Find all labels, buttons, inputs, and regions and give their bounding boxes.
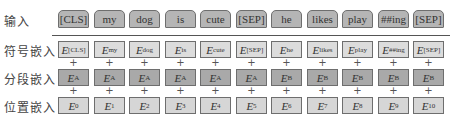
input-token-box: dog <box>129 10 160 28</box>
embedding-symbol: E <box>210 72 217 84</box>
embedding-symbol: E <box>246 100 253 112</box>
segment-embedding-box: EB <box>413 69 444 86</box>
plus-sign: + <box>342 85 373 96</box>
embedding-symbol: E <box>317 72 324 84</box>
plus-sign: + <box>200 85 231 96</box>
position-embedding-box: E7 <box>307 97 338 114</box>
plus-sign: + <box>129 85 160 96</box>
position-embedding-box: E10 <box>413 97 444 114</box>
token-embedding-box: Ehe <box>271 41 302 58</box>
token-embedding-box: Emy <box>94 41 125 58</box>
embedding-symbol: E <box>382 44 389 56</box>
token-embedding-box: Eis <box>165 41 196 58</box>
embedding-subscript: 4 <box>217 102 221 110</box>
embedding-symbol: E <box>388 100 395 112</box>
embedding-subscript: A <box>181 74 186 82</box>
plus-sign: + <box>271 85 302 96</box>
embedding-symbol: E <box>136 44 143 56</box>
embedding-subscript: 8 <box>359 102 363 110</box>
segment-embedding-box: EA <box>236 69 267 86</box>
input-token-box: my <box>94 10 125 28</box>
embedding-symbol: E <box>104 100 111 112</box>
embedding-subscript: B <box>324 74 329 82</box>
embedding-symbol: E <box>61 44 68 56</box>
embedding-symbol: E <box>417 44 424 56</box>
embedding-symbol: E <box>281 72 288 84</box>
embedding-symbol: E <box>348 44 355 56</box>
embedding-subscript: dog <box>143 46 154 54</box>
plus-sign: + <box>236 85 267 96</box>
embedding-symbol: E <box>280 44 287 56</box>
embedding-subscript: cute <box>213 46 225 54</box>
embedding-symbol: E <box>139 72 146 84</box>
embedding-subscript: is <box>182 46 187 54</box>
token-embedding-box: Eplay <box>342 41 373 58</box>
embedding-subscript: A <box>216 74 221 82</box>
embedding-subscript: likes <box>319 46 332 54</box>
embedding-subscript: 7 <box>324 102 328 110</box>
plus-sign: + <box>378 57 409 68</box>
position-embedding-box: E3 <box>165 97 196 114</box>
plus-sign: + <box>200 57 231 68</box>
embedding-symbol: E <box>175 100 182 112</box>
plus-sign: + <box>94 57 125 68</box>
embedding-subscript: B <box>430 74 435 82</box>
embedding-subscript: B <box>395 74 400 82</box>
input-token-box: likes <box>307 10 338 28</box>
plus-sign: + <box>236 57 267 68</box>
embedding-symbol: E <box>68 72 75 84</box>
token-embedding-box: Ecute <box>200 41 231 58</box>
input-token-box: ##ing <box>378 10 409 28</box>
plus-sign: + <box>165 57 196 68</box>
embedding-subscript: [CLS] <box>68 46 86 54</box>
divider-line <box>52 35 450 36</box>
segment-embedding-box: EA <box>129 69 160 86</box>
plus-sign: + <box>58 85 89 96</box>
position-embedding-box: E0 <box>58 97 89 114</box>
row-label-input: 输入 <box>4 12 30 29</box>
embedding-symbol: E <box>102 44 109 56</box>
position-embedding-box: E4 <box>200 97 231 114</box>
embedding-subscript: 0 <box>75 102 79 110</box>
embedding-subscript: 2 <box>146 102 150 110</box>
embedding-symbol: E <box>104 72 111 84</box>
row-label-token-embedding: 符号嵌入 <box>4 42 56 59</box>
embedding-symbol: E <box>423 72 430 84</box>
embedding-subscript: A <box>145 74 150 82</box>
embedding-subscript: A <box>252 74 257 82</box>
plus-sign: + <box>413 57 444 68</box>
segment-embedding-box: EA <box>165 69 196 86</box>
embedding-symbol: E <box>175 72 182 84</box>
segment-embedding-box: EA <box>58 69 89 86</box>
embedding-symbol: E <box>68 100 75 112</box>
input-token-box: [SEP] <box>413 10 444 28</box>
embedding-symbol: E <box>281 100 288 112</box>
embedding-symbol: E <box>206 44 213 56</box>
segment-embedding-box: EB <box>307 69 338 86</box>
embedding-symbol: E <box>175 44 182 56</box>
position-embedding-box: E8 <box>342 97 373 114</box>
input-token-box: [CLS] <box>58 10 89 28</box>
embedding-symbol: E <box>352 72 359 84</box>
token-embedding-box: E[SEP] <box>236 41 267 58</box>
plus-sign: + <box>165 85 196 96</box>
embedding-subscript: 6 <box>288 102 292 110</box>
plus-sign: + <box>271 57 302 68</box>
embedding-subscript: B <box>288 74 293 82</box>
input-token-box: play <box>342 10 373 28</box>
embedding-symbol: E <box>388 72 395 84</box>
embedding-subscript: he <box>287 46 294 54</box>
embedding-symbol: E <box>240 44 247 56</box>
embedding-subscript: B <box>359 74 364 82</box>
embedding-subscript: 9 <box>395 102 399 110</box>
plus-sign: + <box>342 57 373 68</box>
plus-sign: + <box>58 57 89 68</box>
input-token-box: is <box>165 10 196 28</box>
embedding-subscript: A <box>74 74 79 82</box>
input-token-box: [SEP] <box>236 10 267 28</box>
position-embedding-box: E2 <box>129 97 160 114</box>
token-embedding-box: E[SEP] <box>413 41 444 58</box>
embedding-subscript: 5 <box>253 102 257 110</box>
row-label-segment-embedding: 分段嵌入 <box>4 70 56 87</box>
segment-embedding-box: EB <box>342 69 373 86</box>
